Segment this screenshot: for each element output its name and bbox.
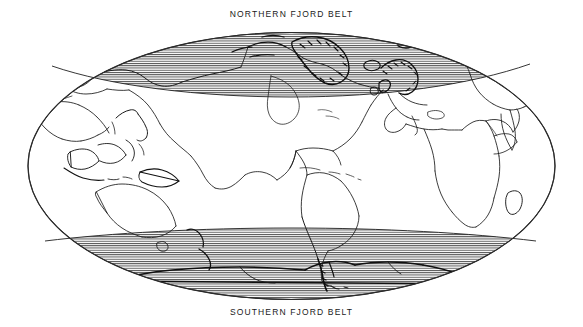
southern-fjord-belt-label: SOUTHERN FJORD BELT bbox=[0, 307, 583, 317]
fjord-belt-world-map: NORTHERN FJORD BELT bbox=[0, 0, 583, 327]
northern-fjord-belt-label: NORTHERN FJORD BELT bbox=[0, 9, 583, 19]
world-map-svg bbox=[0, 0, 583, 327]
